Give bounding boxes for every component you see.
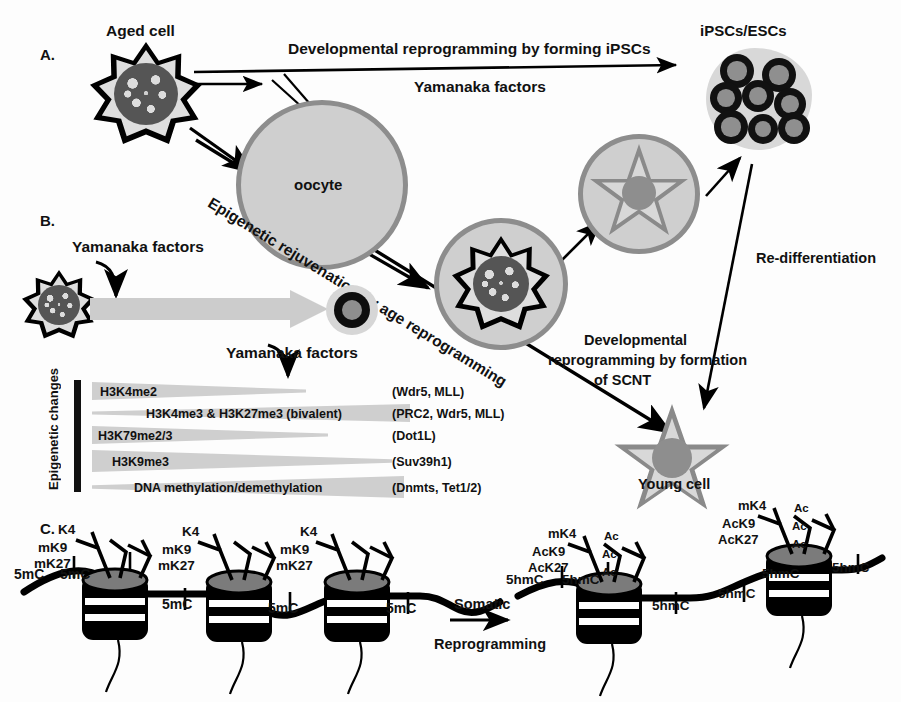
dna-mark-5hmc-1: 5hmC — [562, 572, 600, 587]
dna-mark-5mc-4: 5mC — [386, 600, 416, 616]
somatic-label-line2: Reprogramming — [434, 636, 546, 653]
histone-mark-mk4-r0: mK4 — [548, 526, 576, 541]
histone-mark-mk9-0: mK9 — [38, 540, 67, 555]
ac-mark-r0-0: Ac — [604, 530, 619, 542]
histone-mark-mk9-1: mK9 — [162, 542, 191, 557]
dna-mark-5hmc-3: 5hmC — [718, 586, 756, 601]
histone-mark-mk27-2: mK27 — [276, 558, 313, 573]
dna-mark-5hmc-4: 5hmC — [762, 566, 800, 581]
histone-mark-mk9-2: mK9 — [280, 542, 309, 557]
histone-mark-ack27-r1: AcK27 — [718, 532, 758, 547]
dna-mark-5hmc-2: 5hmC — [652, 598, 690, 613]
dna-mark-5hmc-5: 5hmC — [832, 560, 870, 575]
histone-mark-ack9-r1: AcK9 — [722, 516, 755, 531]
figure-root: A. B. C. Aged cell Developmental reprogr… — [0, 0, 901, 702]
ac-mark-r1-2: Ac — [792, 538, 807, 550]
ac-mark-r1-0: Ac — [794, 502, 809, 514]
histone-mark-k4-1: K4 — [182, 524, 199, 539]
dna-mark-5mc-3: 5mC — [268, 600, 298, 616]
chromatin-panel — [0, 0, 901, 702]
ac-mark-r0-2: Ac — [602, 566, 617, 578]
dna-mark-5hmc-0: 5hmC — [506, 572, 544, 587]
histone-mark-mk27-1: mK27 — [158, 558, 195, 573]
ac-mark-r1-1: Ac — [792, 520, 807, 532]
histone-mark-k4-2: K4 — [300, 524, 317, 539]
ac-mark-r0-1: Ac — [602, 548, 617, 560]
dna-mark-5mc-1: 5mC — [60, 566, 90, 582]
histone-mark-ack9-r0: AcK9 — [532, 544, 565, 559]
somatic-label-line1: Somatic — [454, 596, 510, 613]
histone-mark-k4-0: K4 — [58, 522, 75, 537]
histone-mark-mk4-r1: mK4 — [738, 498, 766, 513]
dna-mark-5mc-0: 5mC — [14, 566, 44, 582]
dna-mark-5mc-2: 5mC — [162, 596, 192, 612]
